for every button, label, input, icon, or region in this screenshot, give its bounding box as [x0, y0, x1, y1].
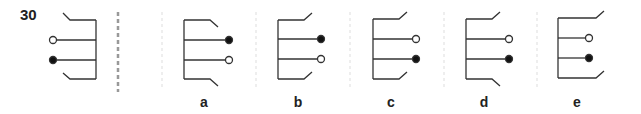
filled-circle-icon: [226, 37, 233, 44]
open-circle-icon: [586, 35, 593, 42]
option-a-label[interactable]: a: [194, 94, 214, 110]
option-dividers: [162, 12, 537, 90]
open-circle-icon: [226, 57, 233, 64]
option-b-label[interactable]: b: [288, 94, 308, 110]
reference-figure: [50, 13, 97, 79]
option-d-label[interactable]: d: [474, 94, 494, 110]
figure-canvas: [0, 0, 641, 114]
open-circle-icon: [413, 36, 420, 43]
filled-circle-icon: [586, 55, 593, 62]
option-e-label[interactable]: e: [567, 94, 587, 110]
option-d-figure[interactable]: [466, 12, 513, 86]
option-c-figure[interactable]: [373, 12, 420, 79]
filled-circle-icon: [318, 36, 325, 43]
option-c-label[interactable]: c: [381, 94, 401, 110]
filled-circle-icon: [506, 56, 513, 63]
filled-circle-icon: [50, 57, 57, 64]
option-e-figure[interactable]: [558, 11, 604, 78]
option-b-figure[interactable]: [278, 13, 325, 79]
option-a-figure[interactable]: [184, 20, 233, 86]
open-circle-icon: [318, 56, 325, 63]
open-circle-icon: [50, 37, 57, 44]
open-circle-icon: [506, 36, 513, 43]
filled-circle-icon: [413, 56, 420, 63]
